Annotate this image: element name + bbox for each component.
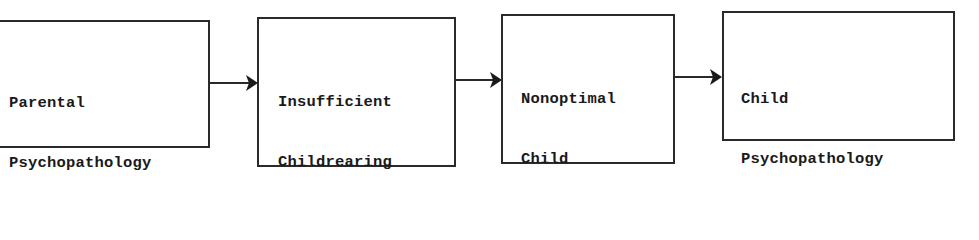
arrow-icon [674, 69, 723, 85]
arrow-icon [209, 75, 259, 91]
node-label-line: Insufficient [278, 92, 392, 112]
node-label-line: Child [521, 149, 626, 169]
node-label: Insufficient Childrearing Behavior [278, 52, 392, 175]
node-label-line: Psychopathology [9, 153, 152, 173]
node-label-line: Nonoptimal [521, 89, 626, 109]
node-label: Nonoptimal Child Development [521, 49, 626, 175]
node-label-line: Psychopathology [741, 149, 884, 169]
node-label-line: Childrearing [278, 152, 392, 172]
node-label-line: Parental [9, 93, 152, 113]
node-label: Child Psychopathology [741, 49, 884, 175]
node-label-line: Child [741, 89, 884, 109]
node-label: Parental Psychopathology [9, 53, 152, 175]
arrow-icon [455, 72, 503, 88]
